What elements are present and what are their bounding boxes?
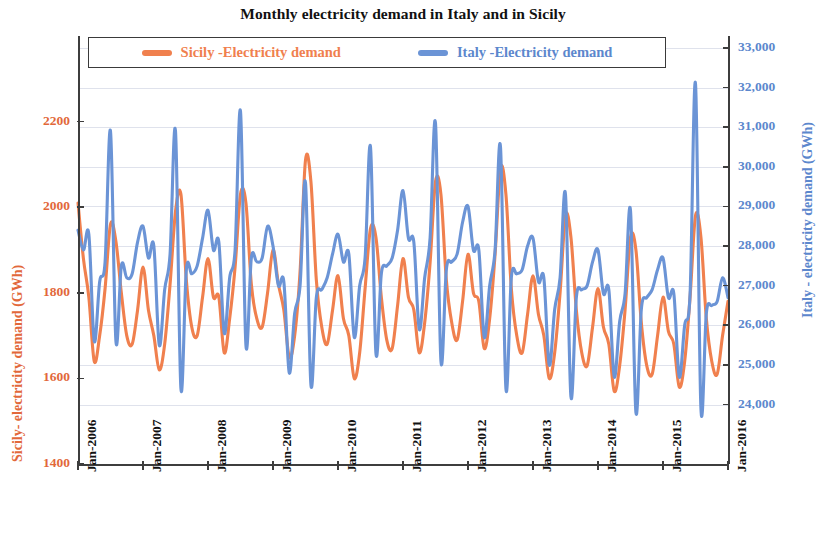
right-axis-tick-label: 32,000	[738, 79, 775, 95]
left-axis-title: Sicily- electricity demand (GWh)	[10, 265, 26, 462]
x-axis-tick	[597, 461, 599, 470]
x-axis-tick	[207, 461, 209, 470]
x-axis-tick-label: Jan-2007	[149, 419, 165, 472]
x-axis-tick	[662, 461, 664, 470]
left-axis-tick-label: 1800	[22, 284, 70, 300]
x-axis-tick-label: Jan-2012	[474, 419, 490, 472]
legend-swatch-sicily-icon	[142, 50, 172, 56]
right-axis-tick	[723, 47, 729, 49]
right-axis-tick	[723, 87, 729, 89]
x-axis-tick-label: Jan-2013	[539, 419, 555, 472]
x-axis-tick-label: Jan-2014	[604, 419, 620, 472]
plot-area	[78, 36, 728, 464]
x-axis-tick-label: Jan-2010	[344, 419, 360, 472]
right-axis-tick	[723, 404, 729, 406]
legend-label-sicily: Sicily -Electricity demand	[181, 44, 341, 61]
left-axis-tick-label: 2000	[22, 198, 70, 214]
x-axis-tick-label: Jan-2016	[734, 419, 750, 472]
x-axis-tick-label: Jan-2011	[409, 420, 425, 472]
right-axis-tick-label: 29,000	[738, 197, 775, 213]
right-axis-tick-label: 28,000	[738, 237, 775, 253]
x-axis-tick	[467, 461, 469, 470]
x-axis-tick-label: Jan-2006	[84, 419, 100, 472]
page-title: Monthly electricity demand in Italy and …	[0, 5, 806, 23]
x-axis-tick-label: Jan-2009	[279, 419, 295, 472]
left-axis-tick	[77, 378, 84, 380]
legend-swatch-italy-icon	[418, 50, 448, 56]
left-axis-tick-label: 2200	[22, 113, 70, 129]
x-axis-tick	[727, 461, 729, 470]
right-axis-tick-label: 24,000	[738, 396, 775, 412]
right-axis-tick	[723, 126, 729, 128]
right-axis-tick-label: 27,000	[738, 277, 775, 293]
right-axis-title: Italy - electricity demand (GWh)	[800, 122, 816, 318]
series-canvas	[78, 36, 728, 464]
left-axis-line	[78, 36, 80, 464]
x-axis-tick	[77, 461, 79, 470]
left-axis-tick	[77, 206, 84, 208]
x-axis-tick	[272, 461, 274, 470]
right-axis-tick	[723, 364, 729, 366]
legend-label-italy: Italy -Electricity demand	[457, 44, 612, 61]
series-line-italy	[78, 82, 728, 416]
right-axis-tick	[723, 166, 729, 168]
x-axis-tick	[402, 461, 404, 470]
right-axis-tick-label: 30,000	[738, 158, 775, 174]
right-axis-tick-label: 26,000	[738, 316, 775, 332]
x-axis-tick	[337, 461, 339, 470]
x-axis-tick	[142, 461, 144, 470]
left-axis-tick-label: 1400	[22, 455, 70, 471]
left-axis-tick-label: 1600	[22, 369, 70, 385]
right-axis-tick	[723, 285, 729, 287]
right-axis-tick	[723, 206, 729, 208]
x-axis-tick-label: Jan-2015	[669, 419, 685, 472]
legend-item-italy: Italy -Electricity demand	[418, 44, 612, 61]
x-axis-tick-label: Jan-2008	[214, 419, 230, 472]
left-axis-tick	[77, 121, 84, 123]
right-axis-line	[728, 36, 730, 464]
right-axis-tick-label: 33,000	[738, 39, 775, 55]
right-axis-tick-label: 31,000	[738, 118, 775, 134]
chart-legend: Sicily -Electricity demand Italy -Electr…	[88, 37, 666, 68]
right-axis-tick-label: 25,000	[738, 356, 775, 372]
left-axis-tick	[77, 292, 84, 294]
legend-item-sicily: Sicily -Electricity demand	[142, 44, 341, 61]
x-axis-tick	[532, 461, 534, 470]
right-axis-tick	[723, 324, 729, 326]
right-axis-tick	[723, 245, 729, 247]
